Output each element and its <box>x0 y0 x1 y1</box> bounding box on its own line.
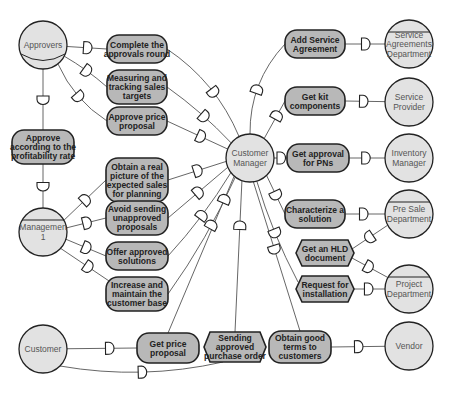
actor-management[interactable]: Managemen1 <box>19 208 67 256</box>
actor-label: Approvers <box>24 40 63 50</box>
link-offer-cm-dependency-icon <box>195 208 210 222</box>
actor-project-dept[interactable]: ProjectDepartment <box>385 265 433 313</box>
link-po-cm-dependency-icon <box>234 221 246 230</box>
actor-service-agreements[interactable]: ServiceAgreementsDepartment <box>385 20 433 68</box>
link-cm-install-dependency-icon <box>268 227 282 239</box>
goal-obtain-terms[interactable]: Obtain goodterms tocustomers <box>269 331 331 363</box>
goal-label: approvals round <box>104 49 171 59</box>
actor-label: Managemen <box>19 222 67 232</box>
link-mgmt-increase-dependency-icon <box>82 260 96 275</box>
link-complete-cm-dependency-icon <box>206 85 221 99</box>
link-po-cm <box>235 181 242 332</box>
actor-label: Service <box>395 30 424 40</box>
actor-customer[interactable]: Customer <box>19 325 67 373</box>
goal-characterize[interactable]: Characterize asolution <box>285 200 345 228</box>
link-approvers-profit-dependency-icon <box>37 96 49 105</box>
goal-real-picture[interactable]: Obtain a realpicture of theexpected sale… <box>106 158 168 202</box>
goal-label: for planning <box>112 189 161 199</box>
goal-avoid-sending[interactable]: Avoid sendingunapprovedproposals <box>106 201 168 235</box>
task-get-hld[interactable]: Get an HLDdocument <box>296 240 354 266</box>
goal-label: targets <box>123 91 152 101</box>
link-complete-cm <box>167 49 239 137</box>
link-addservice-sad-dependency-icon <box>362 38 371 50</box>
actor-service-provider[interactable]: ServiceProvider <box>385 78 433 126</box>
goal-complete-approvals[interactable]: Complete theapprovals round <box>104 35 171 63</box>
actor-label: Department <box>387 49 432 59</box>
goal-label: profitability rate <box>11 151 76 161</box>
link-approvers-measuring-dependency-icon <box>80 64 94 79</box>
actor-customer-manager[interactable]: CustomerManager <box>226 134 274 182</box>
dependency-diagram: ApproversManagemen1CustomerCustomerManag… <box>0 0 465 393</box>
goal-label: customer base <box>107 298 167 308</box>
link-getkit-sp-dependency-icon <box>359 95 368 107</box>
actor-vendor[interactable]: Vendor <box>385 322 433 370</box>
actor-label: Department <box>387 214 432 224</box>
actor-label: Inventory <box>392 148 428 158</box>
actor-label: Department <box>387 289 432 299</box>
link-customer-getprice <box>67 348 137 349</box>
goal-approve-profit[interactable]: Approveaccording to theprofitability rat… <box>10 130 76 164</box>
goal-label: proposal <box>119 121 155 131</box>
link-mgmt-offer-dependency-icon <box>80 241 92 255</box>
actor-label: Pre Sale <box>393 204 426 214</box>
goal-label: for PNs <box>303 158 334 168</box>
actor-label: Agreements <box>386 39 432 49</box>
link-customer-getprice-dependency-icon <box>105 342 114 354</box>
goal-label: purchase order <box>204 351 267 361</box>
goal-label: installation <box>303 289 348 299</box>
actor-approvers[interactable]: Approvers <box>19 21 67 69</box>
actor-label: Manager <box>233 158 267 168</box>
goal-get-pns[interactable]: Get approvalfor PNs <box>287 144 349 172</box>
goal-label: components <box>290 101 341 111</box>
goal-get-kit[interactable]: Get kitcomponents <box>285 87 345 115</box>
goal-offer-approved[interactable]: Offer approvedsolutions <box>106 242 168 270</box>
actor-label: Project <box>396 279 423 289</box>
goal-approve-price[interactable]: Approve priceproposal <box>107 107 167 135</box>
actor-label: Customer <box>232 148 269 158</box>
link-getprice-cm-dependency-icon <box>217 193 231 205</box>
link-cm-terms-dependency-icon <box>268 244 282 256</box>
link-approvers-complete-dependency-icon <box>83 42 92 55</box>
link-pns-im-dependency-icon <box>362 152 371 164</box>
link-approveprice-cm-dependency-icon <box>195 130 208 144</box>
link-cm-getkit-dependency-icon <box>270 109 285 122</box>
actor-label: Customer <box>25 344 62 354</box>
link-realpicture-cm-dependency-icon <box>192 163 204 177</box>
goal-increase-base[interactable]: Increase andmaintain thecustomer base <box>106 277 168 311</box>
goal-measuring-sales[interactable]: Measuring andtracking salestargets <box>107 70 167 104</box>
link-avoid-cm-dependency-icon <box>191 185 205 200</box>
link-cm-addservice-dependency-icon <box>250 83 264 95</box>
goal-label: customers <box>279 351 322 361</box>
actor-inventory-manager[interactable]: InventoryManager <box>385 134 433 182</box>
link-mgmt-avoid-dependency-icon <box>81 216 92 230</box>
link-presale-hld-dependency-icon <box>362 230 376 245</box>
actor-label: Service <box>395 92 424 102</box>
actor-label: Vendor <box>396 341 423 351</box>
goal-label: Agreement <box>293 44 338 54</box>
task-sending-po[interactable]: Sendingapprovedpurchase order <box>204 332 267 362</box>
actor-label: 1 <box>41 232 46 242</box>
link-install-project-dependency-icon <box>364 283 373 295</box>
link-terms-vendor-dependency-icon <box>354 341 363 353</box>
link-cm-characterize-dependency-icon <box>269 189 283 202</box>
actor-label: Provider <box>393 102 425 112</box>
task-request-install[interactable]: Request forinstallation <box>296 276 354 302</box>
actor-pre-sale[interactable]: Pre SaleDepartment <box>385 190 433 238</box>
link-profit-management-dependency-icon <box>37 183 49 192</box>
goal-label: solution <box>298 214 331 224</box>
link-cm-pns-dependency-icon <box>277 152 286 164</box>
goal-add-service[interactable]: Add ServiceAgreement <box>285 30 345 58</box>
goal-label: solutions <box>118 256 156 266</box>
goal-label: proposals <box>117 222 158 232</box>
goal-label: proposal <box>150 348 186 358</box>
link-hld-project-dependency-icon <box>362 260 375 275</box>
link-customer-po-dependency-icon <box>138 366 147 378</box>
goal-get-price[interactable]: Get priceproposal <box>137 333 199 363</box>
goal-label: document <box>305 253 346 263</box>
link-characterize-presale-dependency-icon <box>360 208 369 220</box>
actor-label: Manager <box>392 158 426 168</box>
